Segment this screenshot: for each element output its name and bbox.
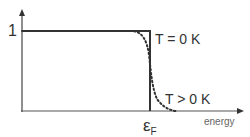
fermi-subscript: F [151,126,157,137]
fermi-symbol: ε [143,116,151,135]
y-axis-arrow-icon [19,9,25,16]
x-axis-arrow-icon [237,108,244,114]
fermi-energy-label: εF [143,116,157,137]
label-t0: T = 0 K [155,31,200,47]
step-curve-t0 [22,31,150,111]
y-tick-one: 1 [8,22,17,40]
fermi-dirac-diagram: 1 T = 0 K T > 0 K energy εF [0,0,250,137]
label-tpos: T > 0 K [165,91,210,107]
smooth-curve-tpos [22,31,176,111]
x-axis-label: energy [204,116,235,127]
